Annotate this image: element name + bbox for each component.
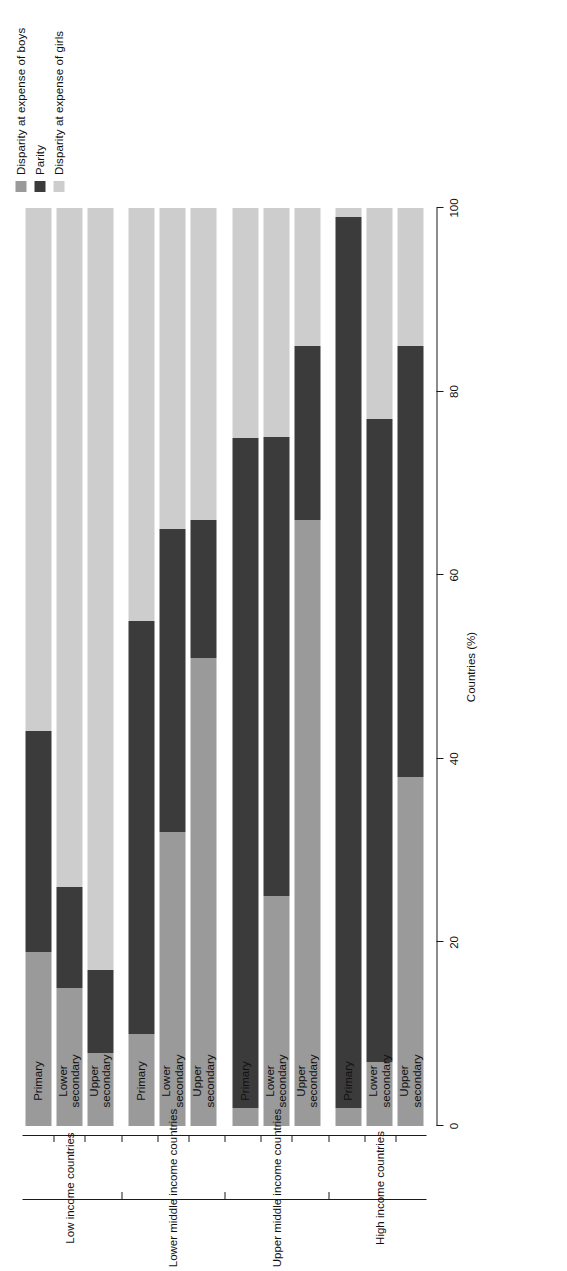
stacked-bar [87, 208, 113, 1126]
category-separator [121, 1136, 122, 1142]
bar-segment-boys [232, 1108, 258, 1126]
category-separator [157, 1136, 158, 1142]
bar-segment-girls [87, 208, 113, 970]
bar-segment-girls [335, 208, 361, 217]
stacked-bar [159, 208, 185, 1126]
stacked-bar [335, 208, 361, 1126]
group-label: High income countries [373, 1088, 385, 1271]
category-separator [53, 1136, 54, 1142]
stacked-bar [25, 208, 51, 1126]
legend-label-boys: Disparity at expense of boys [14, 28, 26, 175]
bar-segment-parity [397, 346, 423, 777]
category-axis: PrimaryLowersecondaryUppersecondaryPrima… [22, 1135, 426, 1136]
category-label: Primary [135, 1052, 148, 1110]
bar-1 [25, 208, 51, 1126]
category-separator [328, 1136, 329, 1142]
value-tick-label: 60 [447, 569, 459, 582]
bar-7 [232, 208, 258, 1126]
bar-segment-girls [397, 208, 423, 346]
group-label: Low income countries [63, 1088, 75, 1271]
category-separator [364, 1136, 365, 1142]
category-label: Uppersecondary [294, 1052, 319, 1110]
bar-6 [190, 208, 216, 1126]
value-tick [436, 941, 443, 942]
stacked-bar [190, 208, 216, 1126]
legend-item-parity: Parity [33, 10, 45, 192]
value-tick-label: 40 [447, 752, 459, 765]
category-label: Primary [31, 1052, 44, 1110]
chart-legend: Disparity at expense of boys Parity Disp… [14, 10, 64, 192]
bar-segment-parity [159, 529, 185, 832]
category-separator [291, 1136, 292, 1142]
stacked-bar [397, 208, 423, 1126]
bar-4 [128, 208, 154, 1126]
category-label: Primary [238, 1052, 251, 1110]
legend-item-girls: Disparity at expense of girls [52, 10, 64, 192]
bar-segment-girls [128, 208, 154, 621]
bar-segment-parity [232, 438, 258, 1108]
bar-segment-girls [294, 208, 320, 346]
stacked-bar [294, 208, 320, 1126]
bar-segment-parity [335, 217, 361, 1107]
stacked-bar [128, 208, 154, 1126]
category-label: Uppersecondary [191, 1052, 216, 1110]
legend-swatch-boys-icon [15, 181, 26, 192]
category-separator [188, 1136, 189, 1142]
legend-swatch-girls-icon [53, 181, 64, 192]
bar-8 [263, 208, 289, 1126]
bar-segment-parity [87, 970, 113, 1053]
category-separator [395, 1136, 396, 1142]
category-separator [84, 1136, 85, 1142]
stacked-bar [232, 208, 258, 1126]
value-tick [436, 391, 443, 392]
bar-segment-parity [294, 346, 320, 520]
bar-5 [159, 208, 185, 1126]
bar-segment-parity [128, 621, 154, 1034]
value-axis-title: Countries (%) [464, 208, 476, 1126]
legend-label-parity: Parity [33, 145, 45, 175]
bar-segment-parity [56, 887, 82, 988]
bar-segment-girls [366, 208, 392, 419]
plot-area [22, 208, 426, 1126]
bar-segment-parity [25, 731, 51, 951]
bar-segment-girls [159, 208, 185, 529]
bar-10 [335, 208, 361, 1126]
category-separator [260, 1136, 261, 1142]
bar-11 [366, 208, 392, 1126]
bar-segment-girls [190, 208, 216, 520]
group-label: Upper middle income countries [270, 1088, 282, 1271]
category-label: Primary [342, 1052, 355, 1110]
group-axis: Low income countriesLower middle income … [22, 1199, 426, 1200]
category-label: Uppersecondary [87, 1052, 112, 1110]
stacked-bar [263, 208, 289, 1126]
legend-item-boys: Disparity at expense of boys [14, 10, 26, 192]
bar-segment-boys [294, 520, 320, 1126]
value-tick [436, 1125, 443, 1126]
bar-segment-girls [56, 208, 82, 887]
bar-segment-parity [190, 520, 216, 658]
bar-segment-girls [232, 208, 258, 438]
bar-12 [397, 208, 423, 1126]
group-label: Lower middle income countries [166, 1088, 178, 1271]
stacked-bar [56, 208, 82, 1126]
value-tick-label: 0 [447, 1123, 459, 1129]
value-tick-label: 100 [447, 198, 459, 217]
legend-swatch-parity-icon [34, 181, 45, 192]
bars-container [22, 208, 426, 1126]
bar-2 [56, 208, 82, 1126]
value-axis: 020406080100 [436, 208, 437, 1126]
value-tick-label: 80 [447, 385, 459, 398]
group-separator [328, 1192, 329, 1200]
bar-segment-girls [25, 208, 51, 731]
value-tick-label: 20 [447, 936, 459, 949]
group-separator [224, 1192, 225, 1200]
bar-segment-parity [366, 419, 392, 1062]
bar-segment-parity [263, 438, 289, 897]
category-separator [224, 1136, 225, 1142]
bar-segment-boys [335, 1108, 361, 1126]
legend-label-girls: Disparity at expense of girls [52, 31, 64, 175]
value-tick [436, 207, 443, 208]
bar-3 [87, 208, 113, 1126]
